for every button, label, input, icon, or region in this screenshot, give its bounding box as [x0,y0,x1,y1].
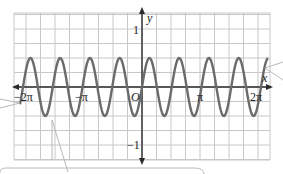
tick-label-neg-pi: −π [75,90,88,104]
x-axis-label: x [261,71,268,85]
sine-graph: y x O −2π −π π 2π 1 −1 [0,0,283,174]
tick-label-neg-one: −1 [127,138,140,152]
y-axis-label: y [146,11,153,25]
tick-label-pi: π [197,90,203,104]
tick-label-one: 1 [133,23,139,37]
y-axis-up-arrow-icon [139,7,145,14]
callout-mid-pointer [52,120,68,172]
callout-right-pointer [265,62,283,80]
y-axis-down-arrow-icon [139,158,145,165]
callout-box-bottom [0,168,204,174]
tick-label-two-pi: 2π [250,90,262,104]
origin-label: O [131,90,140,104]
